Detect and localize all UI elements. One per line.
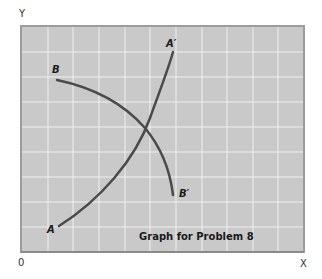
label-b-prime: B′ — [179, 188, 189, 199]
label-a-prime: A′ — [166, 38, 176, 49]
chart-caption: Graph for Problem 8 — [139, 231, 254, 242]
plot-area — [21, 26, 304, 252]
label-b: B — [52, 64, 60, 75]
label-a: A — [47, 224, 55, 235]
x-axis-label: X — [300, 258, 307, 269]
origin-label: 0 — [18, 257, 24, 268]
